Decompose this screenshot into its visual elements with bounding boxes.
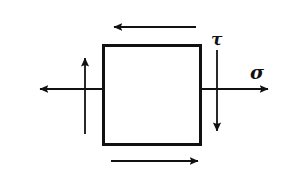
stress-diagram-canvas: σ τ	[0, 0, 289, 183]
sigma-symbol: σ	[250, 61, 265, 83]
stress-element-diagram: σ τ	[0, 0, 289, 183]
tau-symbol: τ	[211, 29, 223, 49]
stress-element-square	[104, 46, 201, 145]
